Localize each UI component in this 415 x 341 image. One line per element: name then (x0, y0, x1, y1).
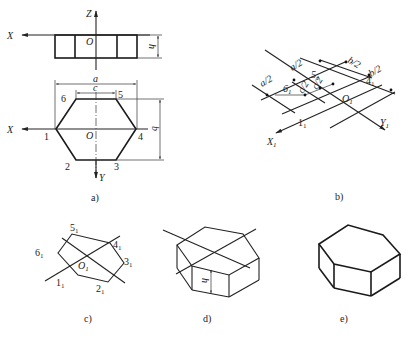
dim-a-half-top: a/2 (288, 57, 305, 73)
vertex-5-label: 5 (118, 89, 123, 100)
caption-b: b) (335, 191, 343, 203)
vertex-3-label: 3 (114, 161, 119, 172)
point-6-label: 61 (283, 83, 292, 96)
point-1-label: 11 (56, 277, 65, 290)
hexagonal-prism-isometric-construction-figure: X Z O h a c b X Y O 1 2 3 4 5 6 a) (0, 0, 415, 341)
dim-b-label: b (150, 126, 161, 131)
point-6-label: 61 (35, 247, 44, 260)
top-face (319, 225, 400, 272)
origin-label: O (86, 130, 93, 141)
x1-axis-line (176, 229, 256, 274)
x1-axis-line (45, 236, 120, 281)
height-label: h (147, 44, 158, 49)
origin-o1-label: O1 (78, 260, 89, 273)
caption-c: c) (84, 313, 92, 325)
origin-label: O (86, 36, 93, 47)
vertex-6-label: 6 (61, 93, 66, 104)
point-1-label: 11 (298, 117, 307, 130)
vertex-1-label: 1 (44, 131, 49, 142)
dim-b-half-top: b/2 (346, 54, 363, 70)
x-axis-label: X (6, 30, 14, 41)
view-a-top-view: a c b X Y O 1 2 3 4 5 6 a) (6, 73, 164, 204)
view-a-front-view: X Z O h (6, 8, 162, 70)
view-e-finished-prism: e) (319, 225, 400, 325)
y1-axis-line (163, 230, 250, 268)
caption-d: d) (203, 313, 211, 325)
origin-o1-label: O1 (342, 93, 353, 106)
height-label: h (200, 278, 211, 283)
vertex-4-label: 4 (138, 131, 143, 142)
point-5-label: 51 (70, 222, 79, 235)
caption-e: e) (340, 313, 348, 325)
point-2-label: 21 (96, 283, 105, 296)
vertex-2-label: 2 (65, 161, 70, 172)
view-d-prism-construction: h d) (163, 227, 259, 325)
dim-c-label: c (93, 82, 98, 93)
point-3-label: 31 (124, 256, 133, 269)
view-c-isometric-top-face: 51 61 41 31 21 11 O1 c) (35, 222, 133, 325)
x-axis-label: X (6, 124, 14, 135)
y-axis-label: Y (99, 172, 106, 183)
caption-a: a) (91, 192, 99, 204)
z-axis-label: Z (86, 8, 92, 19)
x1-axis-label: X1 (266, 136, 277, 149)
view-b-isometric-construction: a/2 a/2 b/2 b/2 c/2 c/2 51 61 41 11 O1 X… (252, 50, 395, 203)
dim-a-half-left: a/2 (258, 73, 275, 89)
